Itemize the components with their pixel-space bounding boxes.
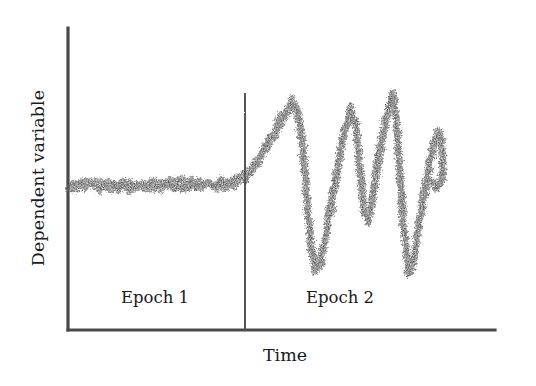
x-axis-label: Time <box>235 345 335 365</box>
plot-area <box>0 0 536 386</box>
epoch-2-label: Epoch 2 <box>290 288 390 307</box>
epoch-1-label: Epoch 1 <box>105 288 205 307</box>
y-axis-label: Dependent variable <box>28 78 48 278</box>
chart-figure: Dependent variable Time Epoch 1 Epoch 2 <box>0 0 536 386</box>
